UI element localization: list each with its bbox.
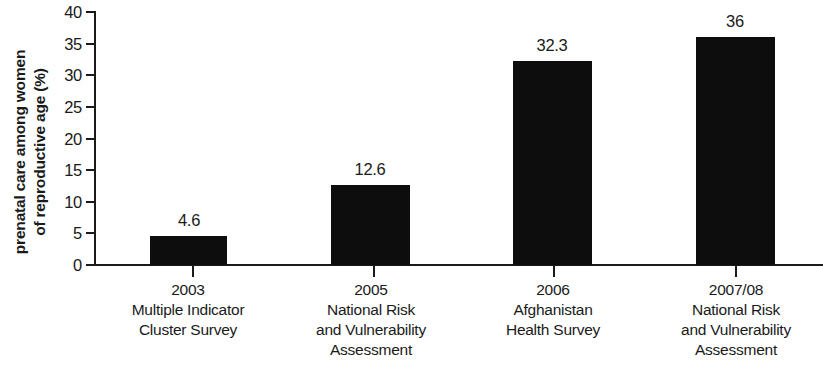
x-label-2006: 2006 Afghanistan Health Survey <box>463 280 643 340</box>
x-label-name-line: National Risk <box>646 300 823 320</box>
x-label-2003: 2003 Multiple Indicator Cluster Survey <box>98 280 278 340</box>
x-tick-mark <box>373 266 375 277</box>
y-tick-label: 40 <box>48 4 82 21</box>
x-tick-mark <box>192 266 194 277</box>
y-tick-mark <box>86 74 95 76</box>
y-tick-label: 15 <box>48 162 82 179</box>
y-tick-mark <box>86 169 95 171</box>
y-tick-label: 30 <box>48 67 82 84</box>
x-label-name-line: Cluster Survey <box>98 320 278 340</box>
x-label-name-line: National Risk <box>281 300 461 320</box>
x-label-name-line: Assessment <box>646 340 823 360</box>
x-label-year: 2007/08 <box>646 280 823 300</box>
x-label-name-line: Afghanistan <box>463 300 643 320</box>
x-label-year: 2006 <box>463 280 643 300</box>
y-tick-label: 0 <box>48 257 82 274</box>
y-tick-mark <box>86 201 95 203</box>
x-label-2005: 2005 National Risk and Vulnerability Ass… <box>281 280 461 361</box>
bar-2007-08 <box>696 37 775 265</box>
y-tick-label: 5 <box>48 225 82 242</box>
y-tick-mark <box>86 264 95 266</box>
bar-2006 <box>513 61 592 265</box>
y-tick-label: 10 <box>48 194 82 211</box>
y-tick-label: 25 <box>48 99 82 116</box>
y-tick-mark <box>86 138 95 140</box>
y-tick-label: 20 <box>48 131 82 148</box>
y-tick-mark <box>86 43 95 45</box>
bar-2005 <box>331 185 410 265</box>
x-tick-mark <box>553 266 555 277</box>
y-tick-mark <box>86 106 95 108</box>
x-label-2007-08: 2007/08 National Risk and Vulnerability … <box>646 280 823 361</box>
bar-value-2007-08: 36 <box>694 13 776 30</box>
bar-value-2006: 32.3 <box>511 37 593 54</box>
bar-chart: prenatal care among women of reproductiv… <box>0 0 823 380</box>
y-axis-title: prenatal care among women of reproductiv… <box>6 23 54 281</box>
bar-2003 <box>150 236 227 265</box>
y-tick-mark <box>86 232 95 234</box>
bar-value-2005: 12.6 <box>329 161 411 178</box>
x-label-name-line: and Vulnerability <box>646 320 823 340</box>
x-label-name-line: Multiple Indicator <box>98 300 278 320</box>
bar-value-2003: 4.6 <box>148 212 230 229</box>
y-axis-title-line-1: prenatal care among women <box>10 50 30 254</box>
x-label-name-line: Health Survey <box>463 320 643 340</box>
x-tick-mark <box>735 266 737 277</box>
x-label-name-line: and Vulnerability <box>281 320 461 340</box>
x-label-name-line: Assessment <box>281 340 461 360</box>
x-label-year: 2003 <box>98 280 278 300</box>
y-tick-label: 35 <box>48 36 82 53</box>
y-tick-mark <box>86 11 95 13</box>
x-label-year: 2005 <box>281 280 461 300</box>
